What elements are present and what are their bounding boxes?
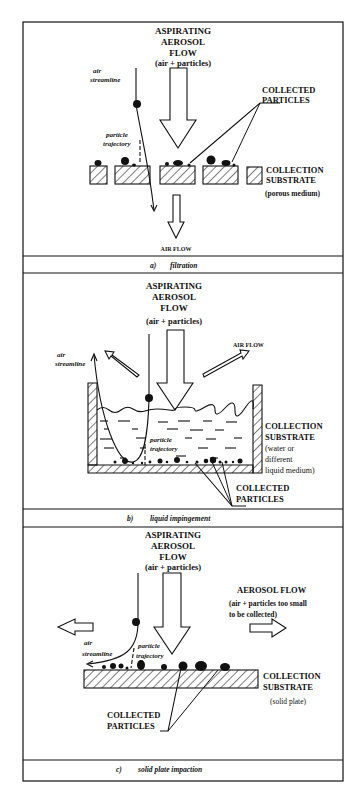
inflow-arrow-icon	[157, 330, 193, 410]
collected-particles-label: PARTICLES	[262, 95, 310, 105]
collected-particle	[233, 164, 236, 167]
container-floor	[88, 465, 253, 473]
substrate-label: COLLECTION	[266, 165, 324, 175]
air-streamline-label: streamline	[89, 76, 120, 84]
particle-trajectory-label: particle	[137, 642, 160, 650]
air-streamline	[94, 334, 149, 462]
title-line: ASPIRATING	[145, 530, 201, 540]
substrate-label: different	[265, 455, 293, 464]
leader-line	[232, 103, 260, 162]
collected-particle	[222, 160, 231, 166]
collected-particle	[165, 162, 169, 166]
panel-filtration: ASPIRATING AEROSOL FLOW (air + particles…	[89, 26, 324, 270]
title-line: AEROSOL	[152, 292, 196, 302]
particle-trajectory-label: particle	[149, 436, 172, 444]
substrate-label: SUBSTRATE	[265, 432, 315, 442]
caption-letter: b)	[127, 514, 134, 523]
collected-particle	[188, 164, 191, 167]
air-streamline-label: air	[93, 67, 101, 75]
air-flow-arrow-left-icon	[105, 351, 139, 377]
particle	[145, 394, 153, 402]
particle-trajectory	[131, 648, 134, 668]
title-line: FLOW	[159, 552, 187, 562]
air-streamline-label: air	[84, 639, 92, 647]
particle	[132, 618, 140, 626]
aerosol-flow-label: to be collected)	[229, 610, 277, 619]
substrate-label: SUBSTRATE	[263, 682, 313, 692]
collected-particles-label: COLLECTED	[236, 483, 289, 493]
particle-trajectory-label: particle	[105, 131, 128, 139]
substrate-label: (water or	[265, 444, 294, 453]
collected-particles	[102, 660, 230, 671]
collected-particles-label: COLLECTED	[107, 710, 160, 720]
particle-trajectory-label: trajectory	[136, 652, 164, 660]
aerosol-flow-left-arrow-icon	[58, 619, 93, 635]
title-line: (air + particles)	[145, 562, 201, 572]
air-flow-label: AIR FLOW	[233, 342, 264, 348]
air-streamline-label: air	[57, 351, 65, 359]
particle-trajectory-label: trajectory	[103, 140, 131, 148]
title-line: AEROSOL	[151, 541, 195, 551]
title-line: AEROSOL	[161, 37, 205, 47]
inflow-arrow-icon	[160, 68, 196, 148]
substrate-block	[115, 166, 150, 184]
aerosol-flow-label: (air + particles too small	[229, 599, 307, 608]
collected-particle	[132, 164, 136, 167]
container-left-wall	[88, 383, 97, 465]
collected-particle	[95, 160, 102, 166]
collected-particles-label: PARTICLES	[236, 494, 284, 504]
substrate-block	[160, 166, 195, 184]
air-streamline	[136, 68, 154, 210]
air-flow-arrow-right-icon	[203, 350, 249, 377]
collected-particles	[114, 457, 243, 464]
panel-solid-plate-impaction: ASPIRATING AEROSOL FLOW (air + particles…	[58, 530, 321, 774]
substrate-label: COLLECTION	[263, 671, 321, 681]
substrate-label: (solid plate)	[270, 697, 307, 706]
particle-trajectory-label: trajectory	[150, 445, 178, 453]
particle	[133, 100, 141, 108]
caption-text: filtration	[170, 261, 198, 270]
title-line: (air + particles)	[155, 58, 211, 68]
substrate-label: COLLECTION	[265, 421, 323, 431]
caption-text: solid plate impaction	[137, 765, 202, 774]
aerosol-flow-label: AEROSOL FLOW	[237, 585, 307, 595]
collected-particle	[121, 157, 129, 165]
title-line: FLOW	[160, 303, 188, 313]
collected-particle	[207, 156, 216, 165]
outflow-arrow-icon	[168, 195, 184, 238]
air-streamline-label: streamline	[54, 360, 85, 368]
air-streamline-label: streamline	[81, 650, 112, 658]
solid-plate	[84, 670, 258, 688]
leader-line	[190, 103, 280, 163]
panel-liquid-impingement: ASPIRATING AEROSOL FLOW (air + particles…	[54, 281, 323, 523]
substrate-label: SUBSTRATE	[266, 175, 316, 185]
collected-particle	[173, 160, 183, 166]
title-line: FLOW	[169, 48, 197, 58]
collected-particles-label: COLLECTED	[262, 85, 315, 95]
aerosol-collection-diagram: ASPIRATING AEROSOL FLOW (air + particles…	[0, 0, 356, 801]
collected-particles-label: PARTICLES	[107, 721, 155, 731]
substrate-label: liquid medium)	[265, 466, 315, 475]
container-right-wall	[253, 385, 262, 473]
substrate-block	[90, 166, 107, 184]
caption-letter: c)	[116, 765, 122, 774]
substrate-legend-swatch	[247, 167, 262, 184]
substrate-label: (porous medium)	[265, 189, 321, 198]
title-line: ASPIRATING	[155, 26, 211, 36]
title-line: ASPIRATING	[146, 281, 202, 291]
outflow-label: AIR FLOW	[161, 246, 192, 252]
caption-text: liquid impingement	[150, 514, 211, 523]
title-line: (air + particles)	[146, 316, 202, 326]
caption-letter: a)	[150, 261, 157, 270]
aerosol-flow-right-arrow-icon	[250, 619, 286, 637]
substrate-block	[203, 166, 238, 184]
